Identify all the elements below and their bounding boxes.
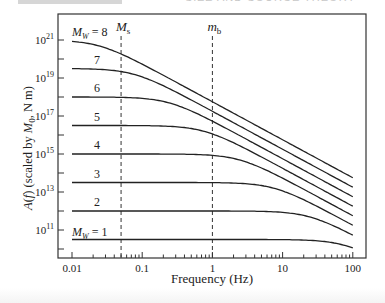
- curve-label-mw-3: 3: [94, 167, 100, 181]
- y-tick-label: 1021: [35, 32, 54, 46]
- y-tick-label: 1019: [35, 70, 54, 84]
- curve-label-mw-1: MW = 1: [71, 225, 107, 241]
- label-ms: Ms: [115, 19, 131, 36]
- curve-label-mw-2: 2: [94, 195, 100, 209]
- label-mb: mb: [207, 19, 221, 36]
- curve-label-mw-8: MW = 8: [71, 25, 107, 41]
- x-tick-label: 0.1: [135, 262, 149, 274]
- curve-label-mw-7: 7: [94, 53, 100, 67]
- y-tick-label: 1017: [35, 108, 54, 122]
- x-tick-label: 10: [277, 262, 289, 274]
- y-axis-label: A(f) (scaled by M0, N m): [21, 86, 37, 211]
- x-tick-label: 0.01: [62, 262, 81, 274]
- curve-label-mw-5: 5: [94, 110, 100, 124]
- y-tick-label: 1011: [35, 222, 54, 236]
- curve-labels: MW = 1234567MW = 8: [71, 25, 107, 241]
- x-axis-label: Frequency (Hz): [171, 271, 253, 286]
- spectrum-chart: 101110131015101710191021 0.010.1110100 M…: [0, 0, 385, 303]
- y-tick-label: 1013: [35, 184, 54, 198]
- curve-label-mw-6: 6: [94, 81, 100, 95]
- y-axis: 101110131015101710191021: [35, 32, 64, 249]
- page-footer-shade: [0, 288, 385, 303]
- svg-text:A(f) (scaled by M0, N m): A(f) (scaled by M0, N m): [21, 86, 37, 211]
- y-tick-label: 1015: [35, 146, 54, 160]
- reference-lines: Msmb: [115, 19, 222, 258]
- curve-label-mw-4: 4: [94, 138, 100, 152]
- x-tick-label: 100: [345, 262, 362, 274]
